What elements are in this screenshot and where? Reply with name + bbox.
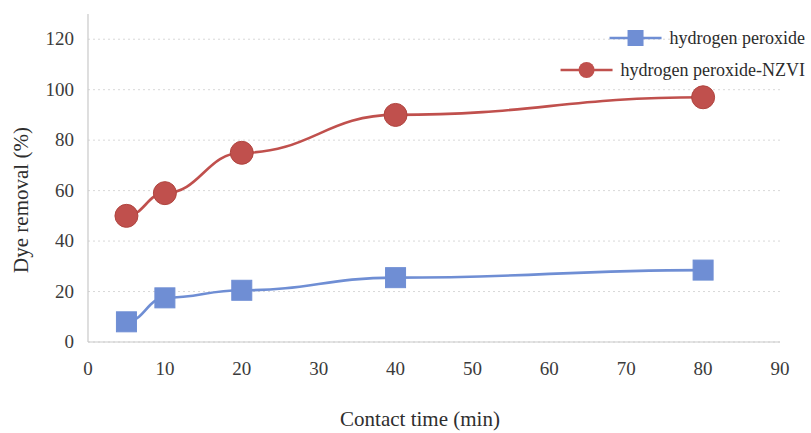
y-tick-label: 40 xyxy=(55,230,74,251)
legend-marker-swatch xyxy=(579,62,595,78)
data-point-marker xyxy=(384,103,407,126)
y-tick-label: 100 xyxy=(46,79,75,100)
data-point-marker xyxy=(115,204,138,227)
x-tick-label: 50 xyxy=(463,358,482,379)
data-point-marker xyxy=(230,141,253,164)
x-tick-label: 60 xyxy=(540,358,559,379)
data-point-marker xyxy=(386,268,406,288)
legend-label: hydrogen peroxide xyxy=(670,28,805,48)
y-tick-label: 60 xyxy=(55,180,74,201)
x-tick-label: 70 xyxy=(617,358,636,379)
x-tick-label: 20 xyxy=(232,358,251,379)
data-point-marker xyxy=(693,260,713,280)
line-chart: 020406080100120 0102030405060708090 Cont… xyxy=(0,0,811,433)
data-point-marker xyxy=(155,288,175,308)
chart-container: 020406080100120 0102030405060708090 Cont… xyxy=(0,0,811,433)
y-tick-label: 0 xyxy=(65,331,75,352)
data-point-marker xyxy=(692,86,715,109)
legend-marker-swatch xyxy=(628,30,644,46)
x-tick-label: 0 xyxy=(83,358,93,379)
x-tick-label: 90 xyxy=(771,358,790,379)
x-tick-label: 10 xyxy=(155,358,174,379)
x-tick-label: 40 xyxy=(386,358,405,379)
x-tick-label: 80 xyxy=(694,358,713,379)
y-tick-label: 80 xyxy=(55,129,74,150)
data-point-marker xyxy=(153,182,176,205)
y-tick-label: 120 xyxy=(46,28,75,49)
data-point-marker xyxy=(232,280,252,300)
data-point-marker xyxy=(116,312,136,332)
legend-label: hydrogen peroxide-NZVI xyxy=(621,60,805,80)
y-axis-title: Dye removal (%) xyxy=(9,127,33,273)
x-tick-label: 30 xyxy=(309,358,328,379)
y-tick-label: 20 xyxy=(55,281,74,302)
x-axis-title: Contact time (min) xyxy=(340,407,500,431)
